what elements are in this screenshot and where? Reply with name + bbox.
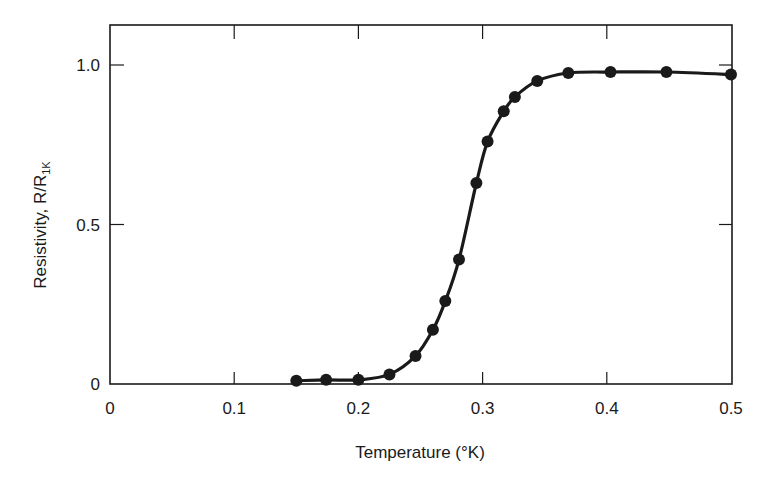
data-point-marker — [439, 295, 451, 307]
data-point-marker — [725, 69, 737, 81]
x-tick-label: 0.1 — [222, 399, 246, 418]
data-point-marker — [509, 91, 521, 103]
plot-border — [110, 25, 732, 384]
data-point-marker — [531, 75, 543, 87]
data-point-marker — [453, 254, 465, 266]
resistivity-chart: 00.10.20.30.40.5 00.51.0 Temperature (°K… — [0, 0, 774, 486]
series-line — [296, 72, 731, 381]
x-tick-labels: 00.10.20.30.40.5 — [105, 399, 743, 418]
data-point-marker — [410, 350, 422, 362]
x-tick-label: 0.3 — [471, 399, 495, 418]
axis-ticks — [110, 25, 732, 384]
data-point-marker — [383, 368, 395, 380]
x-tick-label: 0 — [105, 399, 114, 418]
data-point-marker — [660, 66, 672, 78]
data-point-marker — [290, 375, 302, 387]
data-point-marker — [352, 374, 364, 386]
data-point-marker — [320, 374, 332, 386]
x-tick-label: 0.2 — [347, 399, 371, 418]
data-point-marker — [482, 136, 494, 148]
data-point-marker — [498, 105, 510, 117]
x-axis-title: Temperature (°K) — [355, 443, 485, 462]
y-axis-title: Resistivity, R/R1K — [31, 161, 52, 289]
data-point-marker — [605, 66, 617, 78]
data-point-marker — [470, 177, 482, 189]
y-tick-label: 1.0 — [76, 56, 100, 75]
y-axis-title-subscript: 1K — [40, 161, 52, 175]
y-tick-labels: 00.51.0 — [76, 56, 100, 394]
plot-frame — [110, 25, 732, 384]
x-tick-label: 0.5 — [719, 399, 743, 418]
data-point-marker — [427, 324, 439, 336]
y-axis-title-main: Resistivity, R/R — [31, 175, 50, 289]
data-series — [290, 66, 737, 387]
y-tick-label: 0 — [91, 375, 100, 394]
data-point-marker — [562, 67, 574, 79]
x-tick-label: 0.4 — [595, 399, 619, 418]
y-tick-label: 0.5 — [76, 216, 100, 235]
